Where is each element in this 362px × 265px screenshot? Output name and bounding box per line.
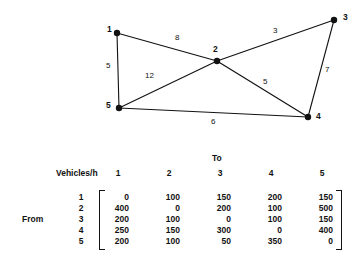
edge-1-2 [117,33,217,61]
matrix-cell-4-2: 150 [140,226,180,235]
matrix-cell-1-4: 200 [242,193,282,202]
network-graph-canvas [0,0,362,135]
edge-weight-1-5: 5 [106,62,110,70]
matrix-row-header-2: 2 [74,204,88,213]
matrix-row-header-4: 4 [74,226,88,235]
matrix-cell-2-3: 200 [191,204,231,213]
matrix-cell-1-2: 100 [140,193,180,202]
matrix-cell-4-4: 0 [242,226,282,235]
figure-root: 12345 85351276 To Vehicles/h From 12345 … [0,0,362,265]
node-2 [214,58,220,64]
matrix-cell-5-5: 0 [293,237,333,246]
node-3 [331,17,337,23]
matrix-cell-4-3: 300 [191,226,231,235]
matrix-col-header-2: 2 [159,169,179,178]
edge-3-4 [308,20,334,117]
matrix-to-header: To [212,154,222,163]
matrix-cell-5-2: 100 [140,237,180,246]
matrix-cell-3-3: 0 [191,215,231,224]
matrix-cell-5-4: 350 [242,237,282,246]
matrix-from-header: From [22,215,43,224]
node-label-3: 3 [343,13,348,22]
node-1 [114,30,120,36]
matrix-cell-3-2: 100 [140,215,180,224]
node-label-5: 5 [106,101,111,110]
edge-weight-3-4: 7 [325,66,329,74]
matrix-cell-3-1: 200 [89,215,129,224]
edge-2-5 [119,61,217,108]
edge-weight-1-2: 8 [175,34,179,42]
matrix-cell-3-5: 150 [293,215,333,224]
matrix-cell-1-3: 150 [191,193,231,202]
node-dots [114,17,337,120]
matrix-cell-5-3: 50 [191,237,231,246]
edge-1-5 [117,33,119,108]
matrix-col-header-1: 1 [108,169,128,178]
edge-4-5 [119,108,308,117]
matrix-cell-2-4: 100 [242,204,282,213]
matrix-left-bracket [99,190,105,250]
matrix-row-header-5: 5 [74,237,88,246]
matrix-cell-1-1: 0 [89,193,129,202]
matrix-col-header-5: 5 [312,169,332,178]
edge-weight-4-5: 6 [211,118,215,126]
node-label-4: 4 [316,112,321,121]
matrix-col-header-3: 3 [210,169,230,178]
matrix-cell-4-5: 400 [293,226,333,235]
matrix-cell-4-1: 250 [89,226,129,235]
matrix-row-header-1: 1 [74,193,88,202]
matrix-corner-header: Vehicles/h [56,169,98,178]
od-matrix: To Vehicles/h From 12345 12345 010015020… [0,138,362,265]
node-label-2: 2 [213,45,218,54]
matrix-cell-2-2: 0 [140,204,180,213]
edge-weight-2-5: 12 [145,72,154,80]
matrix-cell-2-1: 400 [89,204,129,213]
edge-weight-2-3: 3 [273,27,277,35]
node-label-1: 1 [107,25,112,34]
matrix-cell-3-4: 100 [242,215,282,224]
matrix-cell-5-1: 200 [89,237,129,246]
node-4 [305,114,311,120]
edge-lines [117,20,334,117]
edge-2-4 [217,61,308,117]
matrix-col-header-4: 4 [261,169,281,178]
matrix-row-header-3: 3 [74,215,88,224]
matrix-right-bracket [336,190,342,250]
edge-weight-2-4: 5 [263,78,267,86]
network-diagram: 12345 85351276 [0,0,362,135]
matrix-cell-2-5: 500 [293,204,333,213]
matrix-cell-1-5: 150 [293,193,333,202]
node-5 [116,105,122,111]
